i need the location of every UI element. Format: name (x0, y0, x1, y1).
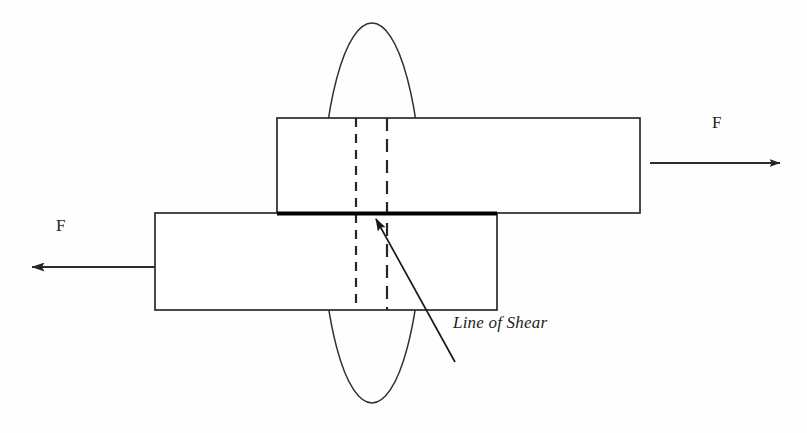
line-of-shear-label: Line of Shear (453, 313, 547, 333)
force-label-right: F (712, 114, 721, 131)
upper-plate (277, 118, 640, 213)
force-label-left: F (56, 217, 65, 234)
lower-plate (155, 213, 497, 310)
shear-joint-figure: F F Line of Shear (0, 0, 807, 433)
shear-diagram-canvas (0, 0, 807, 433)
